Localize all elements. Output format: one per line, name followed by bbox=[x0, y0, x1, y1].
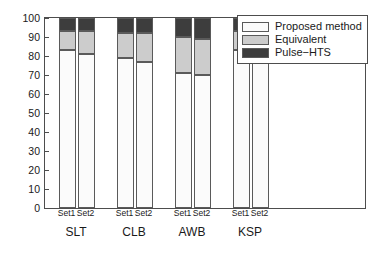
bar-segment-pulse-hts bbox=[194, 18, 211, 39]
bar-segment-proposed-method bbox=[194, 75, 211, 208]
bar-segment-pulse-hts bbox=[117, 18, 134, 33]
x-axis-group-label-awb: AWB bbox=[179, 226, 206, 238]
bar-segment-proposed-method bbox=[252, 56, 269, 208]
bar-segment-equivalent bbox=[194, 39, 211, 75]
legend-swatch bbox=[242, 48, 269, 58]
x-axis-set-label: Set2 bbox=[251, 209, 269, 218]
legend-item: Equivalent bbox=[242, 33, 362, 46]
y-axis-tick-label: 70 bbox=[28, 70, 40, 81]
x-axis-set-label: Set1 bbox=[116, 209, 134, 218]
bar-segment-proposed-method bbox=[136, 62, 153, 208]
x-axis-group-label-ksp: KSP bbox=[238, 226, 262, 238]
x-axis-set-label: Set2 bbox=[77, 209, 95, 218]
stacked-bar-chart-figure: 0102030405060708090100 Set1Set2SLTSet1Se… bbox=[0, 0, 375, 262]
bar-segment-proposed-method bbox=[233, 50, 250, 208]
x-axis-set-label: Set1 bbox=[174, 209, 192, 218]
legend-swatch bbox=[242, 22, 269, 32]
bar-segment-equivalent bbox=[175, 37, 192, 73]
bar-segment-pulse-hts bbox=[59, 18, 76, 31]
x-axis-set-label: Set1 bbox=[58, 209, 76, 218]
bar-segment-proposed-method bbox=[59, 50, 76, 208]
x-axis-set-label: Set1 bbox=[232, 209, 250, 218]
y-axis-tick-label: 100 bbox=[22, 13, 40, 24]
bar-segment-equivalent bbox=[78, 31, 95, 54]
legend-label: Proposed method bbox=[275, 21, 362, 32]
y-axis-tick-label: 0 bbox=[34, 203, 40, 214]
bar-segment-equivalent bbox=[59, 31, 76, 50]
bar-segment-proposed-method bbox=[117, 58, 134, 208]
legend-label: Pulse−HTS bbox=[275, 47, 331, 58]
bar-segment-proposed-method bbox=[175, 73, 192, 208]
bar-segment-pulse-hts bbox=[78, 18, 95, 31]
bar-segment-proposed-method bbox=[78, 54, 95, 208]
y-axis-tick-label: 80 bbox=[28, 51, 40, 62]
legend-item: Proposed method bbox=[242, 20, 362, 33]
chart-legend: Proposed methodEquivalentPulse−HTS bbox=[237, 15, 368, 64]
y-axis-tick-label: 50 bbox=[28, 108, 40, 119]
bar-segment-equivalent bbox=[136, 33, 153, 62]
bar-segment-pulse-hts bbox=[136, 18, 153, 33]
x-axis-group-label-slt: SLT bbox=[65, 226, 86, 238]
y-axis-tick-label: 30 bbox=[28, 146, 40, 157]
y-axis-tick-label: 90 bbox=[28, 32, 40, 43]
y-axis-tick-label: 40 bbox=[28, 127, 40, 138]
x-axis-set-label: Set2 bbox=[193, 209, 211, 218]
x-axis-group-label-clb: CLB bbox=[122, 226, 145, 238]
y-axis-tick-label: 60 bbox=[28, 89, 40, 100]
legend-swatch bbox=[242, 35, 269, 45]
y-axis-tick-label: 20 bbox=[28, 165, 40, 176]
bar-segment-pulse-hts bbox=[175, 18, 192, 37]
y-axis-tick-label: 10 bbox=[28, 184, 40, 195]
legend-label: Equivalent bbox=[275, 34, 326, 45]
x-axis-set-label: Set2 bbox=[135, 209, 153, 218]
y-axis-tick-mark bbox=[45, 208, 49, 209]
legend-item: Pulse−HTS bbox=[242, 46, 362, 59]
bar-segment-equivalent bbox=[117, 33, 134, 58]
